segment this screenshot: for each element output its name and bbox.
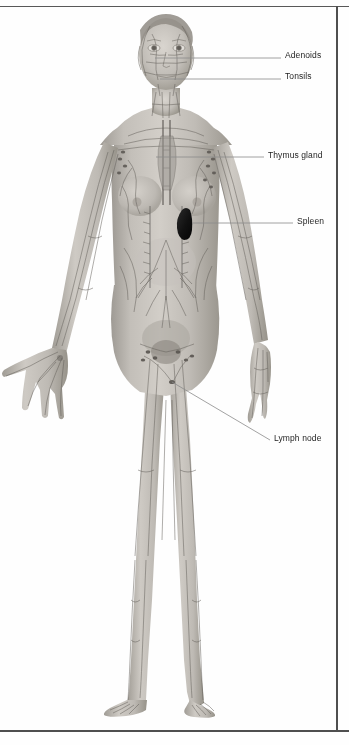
label-lymph-node: Lymph node [274,433,321,443]
body-silhouette [2,14,271,718]
label-tonsils: Tonsils [285,71,312,81]
label-spleen: Spleen [297,216,324,226]
lymphatic-system-figure: Adenoids Tonsils Thymus gland Spleen Lym… [0,0,349,745]
human-body-illustration [0,0,349,745]
label-adenoids: Adenoids [285,50,321,60]
label-thymus-gland: Thymus gland [268,150,323,160]
thymus-gland-organ [158,136,176,190]
